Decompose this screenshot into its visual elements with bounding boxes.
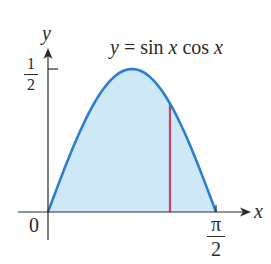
function-label: y = sin x cos x: [110, 36, 223, 59]
function-label-sin: sin: [140, 36, 163, 58]
function-label-x1: x: [169, 36, 178, 58]
shaded-area: [48, 69, 216, 212]
fraction-bar: [24, 74, 38, 75]
fraction-bar: [207, 236, 225, 237]
x-tick-numerator: π: [207, 214, 225, 234]
function-label-lhs: y: [110, 36, 119, 58]
function-label-eq: =: [124, 36, 135, 58]
y-tick-denominator: 2: [24, 77, 38, 93]
function-label-x2: x: [214, 36, 223, 58]
y-tick-numerator: 1: [24, 56, 38, 72]
x-tick-label: π 2: [207, 214, 225, 259]
y-axis-label: y: [42, 22, 51, 45]
origin-label: 0: [29, 214, 39, 237]
x-axis-label: x: [254, 200, 263, 223]
x-tick-denominator: 2: [207, 239, 225, 259]
function-label-cos: cos: [182, 36, 209, 58]
y-tick-label: 1 2: [24, 56, 38, 93]
